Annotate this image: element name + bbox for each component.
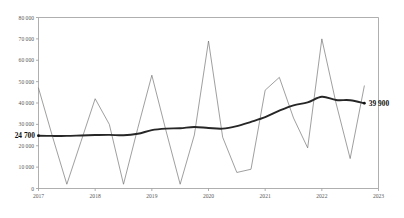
chart-container: 010 00020 00030 00040 00050 00060 00070 … bbox=[0, 0, 404, 218]
x-tick-label: 2022 bbox=[316, 193, 327, 199]
x-tick-label: 2017 bbox=[33, 193, 44, 199]
line-chart: 010 00020 00030 00040 00050 00060 00070 … bbox=[0, 0, 404, 218]
end-marker bbox=[363, 102, 366, 105]
y-tick-label: 10 000 bbox=[19, 164, 35, 170]
y-tick-label: 80 000 bbox=[19, 15, 35, 21]
annotation-end-value: 39 900 bbox=[369, 99, 390, 108]
y-axis: 010 00020 00030 00040 00050 00060 00070 … bbox=[19, 15, 39, 192]
x-tick-label: 2019 bbox=[146, 193, 157, 199]
y-tick-label: 40 000 bbox=[19, 100, 35, 106]
y-tick-label: 60 000 bbox=[19, 57, 35, 63]
y-tick-label: 70 000 bbox=[19, 36, 35, 42]
y-tick-label: 50 000 bbox=[19, 79, 35, 85]
x-axis: 2017201820192020202120222023 bbox=[33, 189, 384, 200]
series-line-quarterly bbox=[39, 39, 365, 184]
y-tick-label: 0 bbox=[31, 186, 34, 192]
x-tick-label: 2020 bbox=[203, 193, 214, 199]
annotation-layer: 24 70039 900 bbox=[15, 99, 390, 140]
series-line-trend bbox=[39, 97, 365, 136]
y-tick-label: 20 000 bbox=[19, 143, 35, 149]
x-tick-label: 2018 bbox=[90, 193, 101, 199]
y-tick-label: 30 000 bbox=[19, 121, 35, 127]
x-tick-label: 2023 bbox=[373, 193, 384, 199]
annotation-start-value: 24 700 bbox=[15, 131, 36, 140]
series-layer bbox=[39, 39, 365, 184]
start-marker bbox=[37, 134, 40, 137]
x-tick-label: 2021 bbox=[260, 193, 271, 199]
